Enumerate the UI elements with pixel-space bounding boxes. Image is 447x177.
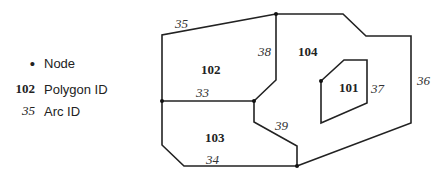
polygon-id-label: 102 <box>201 62 221 77</box>
arc-34 <box>162 101 297 166</box>
arc-id-label: 39 <box>274 118 289 133</box>
polygon-arc-diagram: 102 104 101 103 35 38 33 39 34 37 36 <box>0 0 447 177</box>
node-icon <box>160 99 164 103</box>
polygon-id-label: 104 <box>298 44 318 59</box>
arc-id-label: 36 <box>416 73 431 88</box>
node-icon <box>295 164 299 168</box>
node-icon <box>274 12 278 16</box>
polygon-id-label: 103 <box>205 130 225 145</box>
arc-id-label: 38 <box>257 44 272 59</box>
polygon-id-label: 101 <box>339 80 359 95</box>
arc-id-label: 37 <box>370 81 385 96</box>
node-icon <box>252 99 256 103</box>
arc-id-label: 34 <box>205 152 220 167</box>
node-icon <box>319 79 323 83</box>
arc-id-label: 33 <box>195 85 210 100</box>
arc-id-label: 35 <box>174 16 189 31</box>
arc-39 <box>254 101 297 166</box>
